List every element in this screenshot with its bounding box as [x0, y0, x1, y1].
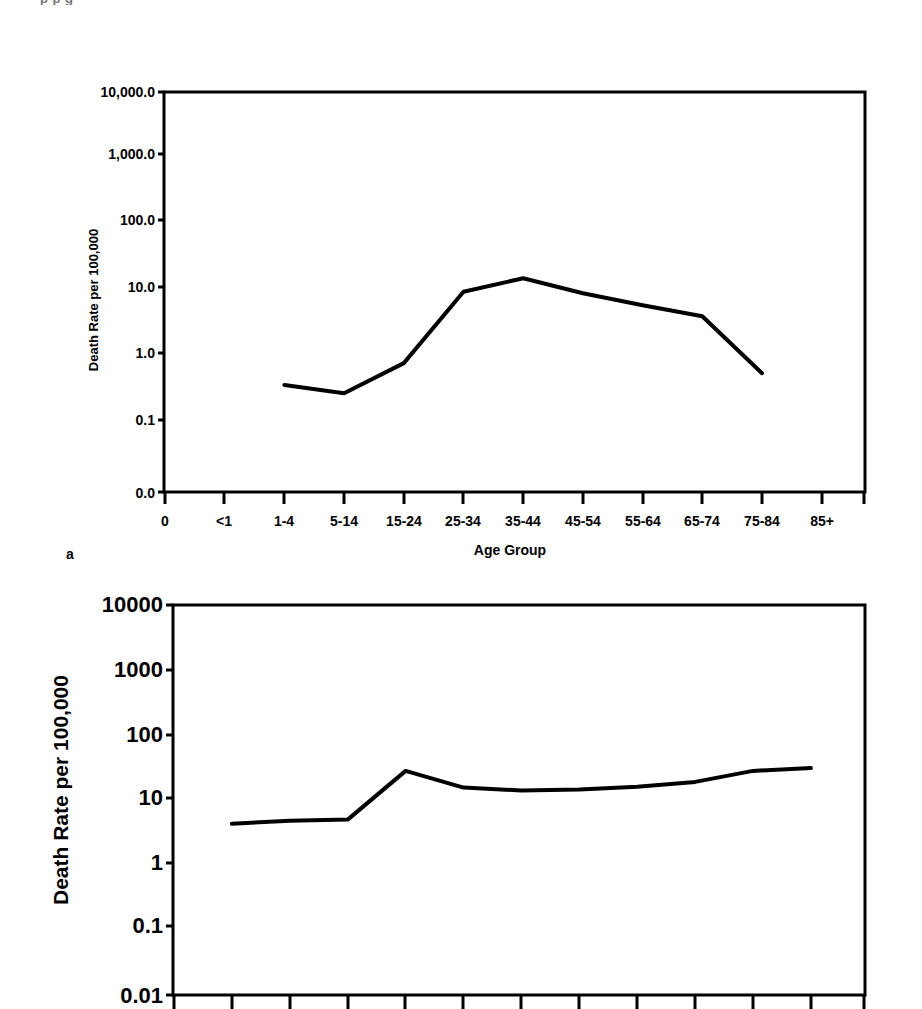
svg-text:85+: 85+: [810, 513, 834, 529]
chart-b-panel: Death Rate per 100,000 10000 1000 100 10…: [0, 580, 922, 1009]
chart-b-y-axis-title: Death Rate per 100,000: [49, 675, 72, 905]
chart-a-plot-frame: [164, 92, 865, 492]
svg-text:0: 0: [161, 513, 169, 529]
chart-a-ytick-label-100: 100.0: [120, 212, 155, 228]
svg-text:<1: <1: [216, 513, 232, 529]
chart-b-plot-frame: [173, 605, 865, 995]
chart-b-ytick-label-10: 10: [139, 785, 163, 810]
chart-a-y-axis-title: Death Rate per 100,000: [86, 229, 101, 371]
chart-a-svg: Death Rate per 100,000 10,000.0 1,000.0 …: [0, 60, 922, 560]
chart-a-panel: Death Rate per 100,000 10,000.0 1,000.0 …: [0, 60, 922, 560]
svg-text:1-4: 1-4: [274, 513, 294, 529]
chart-a-xtick-marks: [165, 492, 864, 504]
chart-b-ytick-label-100: 100: [126, 722, 163, 747]
panel-label-a: a: [66, 546, 74, 562]
clipped-caption-text: p p g: [40, 0, 470, 5]
chart-a-ytick-label-0-1: 0.1: [136, 412, 156, 428]
chart-b-svg: Death Rate per 100,000 10000 1000 100 10…: [0, 580, 922, 1009]
chart-a-ytick-label-1000: 1,000.0: [108, 146, 155, 162]
chart-a-xtick-labels: 0 <1 1-4 5-14 15-24 25-34 35-44 45-54 55…: [161, 513, 834, 529]
chart-a-ytick-label-10: 10.0: [128, 279, 155, 295]
svg-text:15-24: 15-24: [386, 513, 422, 529]
chart-b-ytick-label-1000: 1000: [114, 657, 163, 682]
chart-a-ytick-label-1: 1.0: [136, 345, 156, 361]
chart-a-series-line: [284, 278, 762, 393]
svg-text:25-34: 25-34: [445, 513, 481, 529]
svg-text:5-14: 5-14: [330, 513, 358, 529]
chart-a-x-axis-title: Age Group: [474, 542, 546, 558]
chart-a-ytick-label-0-0: 0.0: [136, 485, 156, 501]
svg-text:75-84: 75-84: [744, 513, 780, 529]
chart-b-series-line: [232, 768, 811, 824]
chart-a-ytick-label-10000: 10,000.0: [101, 84, 156, 100]
svg-text:55-64: 55-64: [625, 513, 661, 529]
svg-text:65-74: 65-74: [684, 513, 720, 529]
chart-b-ytick-label-0-01: 0.01: [120, 983, 163, 1008]
chart-b-xtick-marks: [174, 995, 864, 1009]
chart-b-ytick-label-10000: 10000: [102, 592, 163, 617]
svg-text:45-54: 45-54: [565, 513, 601, 529]
figure-container: p p g Death Rate per 100,000 10,000.0 1,…: [0, 0, 922, 1009]
chart-b-ytick-label-0-1: 0.1: [132, 913, 163, 938]
chart-b-ytick-label-1: 1: [151, 850, 163, 875]
svg-text:35-44: 35-44: [505, 513, 541, 529]
